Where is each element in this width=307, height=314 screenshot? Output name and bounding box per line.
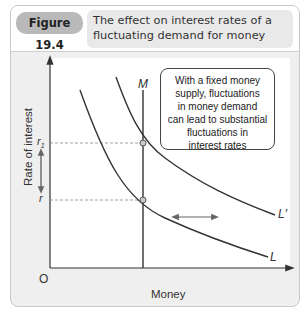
annotation-box: With a fixed money supply, fluctuations …: [160, 68, 275, 150]
equilibrium-point-r: [140, 197, 146, 203]
label-M: M: [138, 77, 148, 91]
label-L-prime: L′: [278, 207, 287, 221]
equilibrium-point-r1: [140, 140, 146, 146]
label-r: r: [39, 192, 43, 204]
label-origin: O: [39, 272, 48, 286]
note-line: interest rates: [165, 139, 270, 152]
r1-subscript: 1: [41, 142, 45, 149]
chart-svg: [0, 0, 307, 314]
label-r1: r1: [37, 135, 45, 149]
note-line: fluctuations in: [165, 126, 270, 139]
note-line: supply, fluctuations: [165, 87, 270, 100]
note-line: With a fixed money: [165, 74, 270, 87]
label-L: L: [270, 250, 277, 264]
y-axis-label: Rate of interest: [22, 97, 34, 197]
note-line: in money demand: [165, 100, 270, 113]
x-axis-label: Money: [151, 288, 186, 300]
note-line: can lead to substantial: [165, 113, 270, 126]
